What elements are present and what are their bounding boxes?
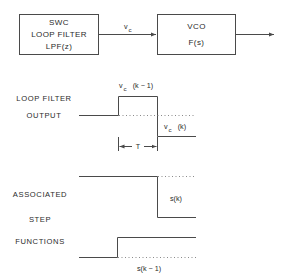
vc-label: vc: [124, 22, 132, 33]
loop-filter-output-section: LOOP FILTER OUTPUT vc(k − 1) vc(k) T: [16, 81, 196, 151]
step-functions-label-line3: FUNCTIONS: [15, 237, 65, 246]
loop-filter-output-label-line2: OUTPUT: [27, 111, 62, 120]
loop-filter-output-label-line1: LOOP FILTER: [16, 94, 71, 103]
vco-block: VCO F(s): [158, 15, 236, 55]
vco-title: VCO: [187, 22, 206, 31]
s-k-minus-1-label: s(k − 1): [137, 264, 161, 273]
loop-filter-name: LOOP FILTER: [31, 30, 87, 39]
period-dimension: T: [119, 137, 158, 151]
step-functions-label-line1: ASSOCIATED: [13, 190, 67, 199]
loop-filter-transfer-function: LPF(z): [46, 42, 72, 51]
s-k-label: s(k): [170, 194, 182, 203]
rising-step-waveform: [79, 238, 196, 258]
vc-k-label: vc(k): [164, 122, 186, 133]
vc-connection: vc: [99, 22, 157, 35]
loop-filter-block: SWC LOOP FILTER LPF(z): [20, 15, 99, 55]
period-label: T: [136, 142, 141, 151]
diagram-canvas: SWC LOOP FILTER LPF(z) vc VCO F(s) LOOP …: [0, 0, 301, 279]
step-functions-section: ASSOCIATED STEP FUNCTIONS s(k) s(k − 1): [13, 177, 196, 274]
loop-filter-title: SWC: [49, 18, 69, 27]
vc-k-minus-1-label: vc(k − 1): [119, 81, 153, 92]
block-diagram: SWC LOOP FILTER LPF(z) vc VCO F(s): [20, 15, 275, 55]
vco-transfer-function: F(s): [189, 38, 205, 47]
vco-box: [158, 15, 236, 55]
step-functions-label-line2: STEP: [29, 215, 51, 224]
